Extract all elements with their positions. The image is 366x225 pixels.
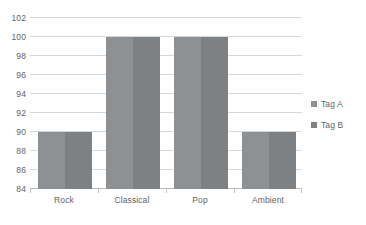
x-axis-label-rock: Rock xyxy=(30,196,98,205)
x-axis-tick-mark xyxy=(30,189,31,193)
bar-group-rock[interactable] xyxy=(38,132,92,189)
bar-group-pop[interactable] xyxy=(174,37,228,189)
legend-label-tag-b: Tag B xyxy=(321,121,343,130)
y-axis-tick-label: 88 xyxy=(0,147,26,156)
plot-area xyxy=(30,17,302,189)
legend-label-tag-a: Tag A xyxy=(321,100,343,109)
bar-chart: 102 100 98 96 94 92 90 88 86 84 xyxy=(0,0,366,225)
chart-legend: Tag A Tag B xyxy=(311,100,343,129)
y-axis-tick-label: 98 xyxy=(0,52,26,61)
bar-tag-b-rock[interactable] xyxy=(65,132,92,189)
x-axis-tick-mark xyxy=(166,189,167,193)
bar-tag-b-ambient[interactable] xyxy=(269,132,296,189)
bar-tag-a-pop[interactable] xyxy=(174,37,201,189)
x-axis-tick-mark xyxy=(98,189,99,193)
x-axis-tick-mark xyxy=(301,189,302,193)
bar-tag-b-pop[interactable] xyxy=(201,37,228,189)
legend-item-tag-a[interactable]: Tag A xyxy=(311,100,343,109)
legend-swatch-icon xyxy=(311,122,317,128)
bar-tag-b-classical[interactable] xyxy=(133,37,160,189)
gridline xyxy=(30,112,302,113)
gridline xyxy=(30,74,302,75)
y-axis-tick-label: 102 xyxy=(0,14,26,23)
bar-group-classical[interactable] xyxy=(106,37,160,189)
x-axis-tick-mark xyxy=(234,189,235,193)
x-axis-label-pop: Pop xyxy=(166,196,234,205)
y-axis-tick-label: 100 xyxy=(0,33,26,42)
legend-swatch-icon xyxy=(311,101,317,107)
legend-item-tag-b[interactable]: Tag B xyxy=(311,121,343,130)
y-axis-tick-label: 86 xyxy=(0,166,26,175)
y-axis-tick-label: 84 xyxy=(0,185,26,194)
bar-tag-a-ambient[interactable] xyxy=(242,132,269,189)
bar-group-ambient[interactable] xyxy=(242,132,296,189)
gridline xyxy=(30,93,302,94)
gridline xyxy=(30,55,302,56)
y-axis-tick-label: 92 xyxy=(0,109,26,118)
x-axis-label-classical: Classical xyxy=(98,196,166,205)
y-axis-tick-label: 90 xyxy=(0,128,26,137)
bar-tag-a-classical[interactable] xyxy=(106,37,133,189)
y-axis-tick-label: 94 xyxy=(0,90,26,99)
x-axis-label-ambient: Ambient xyxy=(234,196,302,205)
y-axis-tick-label: 96 xyxy=(0,71,26,80)
bar-tag-a-rock[interactable] xyxy=(38,132,65,189)
gridline xyxy=(30,36,302,37)
gridline xyxy=(30,17,302,18)
